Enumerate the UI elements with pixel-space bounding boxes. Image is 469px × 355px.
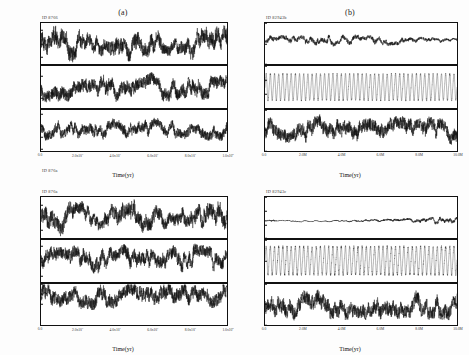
y-tick-mark (265, 66, 267, 67)
trace-svg (41, 23, 227, 64)
trace-svg (41, 66, 227, 107)
y-tick-mark (265, 43, 267, 44)
panel-c-plotbox: i0.800.74e0.300.260.20a0.1350.1300.125 (40, 196, 228, 326)
y-tick-mark (265, 23, 267, 24)
y-tick-mark (265, 224, 267, 225)
data-trace (265, 35, 457, 47)
y-tick-mark (265, 261, 267, 262)
y-tick-mark (41, 283, 43, 284)
x-tick-label: 4.0M (338, 327, 346, 331)
y-tick-mark (265, 197, 267, 198)
data-trace (265, 246, 457, 277)
x-tick-label: 4.0x107 (110, 327, 121, 332)
y-tick-mark (265, 94, 267, 95)
panel-b-xlabel: Time(yr) (339, 172, 360, 178)
data-trace (41, 244, 227, 274)
panel-b-subplot-a: a0.170.160.15 (264, 109, 458, 152)
x-tick-label: 6.0x107 (147, 327, 158, 332)
x-tick-label: 1.0x108 (222, 327, 233, 332)
x-tick-label: 0.0 (38, 327, 43, 331)
y-tick-mark (41, 137, 43, 138)
y-tick-mark (41, 98, 43, 99)
panel-b-plotbox: i1.00.50.0e0.450.300.150.00a0.170.160.15 (264, 22, 458, 152)
panel-d-plotbox: i1.51.00.50.0e0.750.600.45a0.7430.7380.7… (264, 196, 458, 326)
panel-c-subplot-a: a0.1350.1300.125 (40, 283, 228, 326)
y-tick-mark (41, 114, 43, 115)
panel-a-xaxis: 0.02.0x1074.0x1076.0x1078.0x1071.0x108 (40, 152, 228, 164)
panel-d-subplot-a: a0.7430.7380.733 (264, 283, 458, 326)
y-tick-mark (41, 304, 43, 305)
y-tick-mark (41, 246, 43, 247)
x-tick-label: 10.0M (453, 327, 463, 331)
panel-c-xaxis: 0.02.0x1074.0x1076.0x1078.0x1071.0x108 (40, 326, 228, 338)
panel-d-xaxis: 0.02.0M4.0M6.0M8.0M10.0M (264, 326, 458, 338)
y-tick-mark (41, 258, 43, 259)
x-tick-label: 2.0x107 (72, 327, 83, 332)
panel-a-title: (a) (118, 8, 127, 17)
panel-a: (a) ID 8766 ID 876a i0.540.480.42e0.080.… (14, 6, 232, 178)
trace-svg (265, 284, 457, 325)
panel-c-xlabel: Time(yr) (112, 346, 133, 352)
y-tick-mark (41, 125, 43, 126)
panel-b: (b) ID 82943b i1.00.50.0e0.450.300.150.0… (238, 6, 462, 178)
y-tick-mark (265, 109, 267, 110)
panel-a-subplot-a: a0.150.100.050.00 (40, 109, 228, 152)
panel-d-run-id: ID 82943c (266, 189, 287, 194)
x-tick-label: 0.0 (38, 153, 43, 157)
panel-d-xlabel: Time(yr) (339, 346, 360, 352)
x-tick-label: 8.0M (415, 327, 423, 331)
x-tick-label: 4.0x107 (110, 153, 121, 158)
data-trace (265, 73, 457, 101)
y-tick-mark (41, 294, 43, 295)
data-trace (41, 118, 227, 141)
panel-a-plotbox: i0.540.480.42e0.080.02a0.150.100.050.00 (40, 22, 228, 152)
panel-d-subplot-e: e0.750.600.45 (264, 239, 458, 282)
y-tick-mark (265, 130, 267, 131)
panel-b-subplot-e: e0.450.300.150.00 (264, 65, 458, 108)
panel-b-title: (b) (345, 8, 355, 17)
y-tick-mark (265, 283, 267, 284)
y-tick-mark (41, 30, 43, 31)
y-tick-mark (41, 148, 43, 149)
x-tick-label: 6.0M (377, 327, 385, 331)
panel-b-xaxis: 0.02.0M4.0M6.0M8.0M10.0M (264, 152, 458, 164)
y-tick-mark (265, 304, 267, 305)
trace-svg (265, 197, 457, 238)
data-trace (265, 289, 457, 320)
x-tick-label: 6.0x107 (147, 153, 158, 158)
x-tick-label: 1.0x108 (222, 153, 233, 158)
data-trace (41, 25, 227, 62)
trace-svg (41, 197, 227, 238)
figure-canvas: (a) ID 8766 ID 876a i0.540.480.42e0.080.… (0, 0, 469, 355)
data-trace (41, 73, 227, 103)
x-tick-label: 8.0x107 (185, 153, 196, 158)
data-trace (265, 114, 457, 144)
y-tick-mark (41, 43, 43, 44)
y-tick-mark (265, 211, 267, 212)
y-tick-mark (265, 240, 267, 241)
trace-svg (41, 110, 227, 151)
panel-c: ID 876a i0.800.74e0.300.260.20a0.1350.13… (14, 180, 232, 352)
data-trace (41, 199, 227, 236)
x-tick-label: 8.0x107 (185, 327, 196, 332)
data-trace (265, 217, 457, 225)
panel-c-subplot-e: e0.300.260.20 (40, 239, 228, 282)
panel-b-run-id: ID 82943b (266, 15, 287, 20)
y-tick-mark (41, 57, 43, 58)
trace-svg (265, 240, 457, 281)
panel-a-run-id: ID 8766 (42, 15, 58, 20)
x-tick-label: 8.0M (415, 153, 423, 157)
panel-c-subplot-i: i0.800.74 (40, 196, 228, 239)
x-tick-label: 2.0M (299, 153, 307, 157)
x-tick-label: 2.0x107 (72, 153, 83, 158)
y-tick-mark (41, 230, 43, 231)
x-tick-label: 6.0M (377, 153, 385, 157)
trace-svg (265, 66, 457, 107)
panel-c-run-id: ID 876a (42, 189, 58, 194)
panel-a-run-id-bottom: ID 876a (42, 168, 58, 173)
trace-svg (41, 240, 227, 281)
trace-svg (265, 23, 457, 64)
y-tick-mark (41, 205, 43, 206)
x-tick-label: 2.0M (299, 327, 307, 331)
panel-a-subplot-i: i0.540.480.42 (40, 22, 228, 65)
